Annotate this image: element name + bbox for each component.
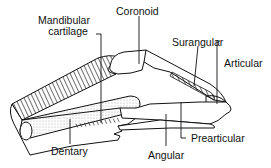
label-mandibular-cartilage: Mandibular cartilage: [38, 15, 90, 37]
label-surangular: Surangular: [172, 37, 223, 48]
label-mandibular-cartilage-line2: cartilage: [38, 26, 90, 37]
surangular-bone: [144, 50, 226, 102]
cartilage-end: [20, 122, 32, 140]
label-coronoid: Coronoid: [116, 6, 159, 17]
label-prearticular: Prearticular: [191, 133, 245, 144]
label-articular: Articular: [224, 58, 263, 69]
label-dentary: Dentary: [51, 146, 88, 157]
coronoid-bone: [110, 50, 147, 74]
label-angular: Angular: [148, 150, 184, 161]
